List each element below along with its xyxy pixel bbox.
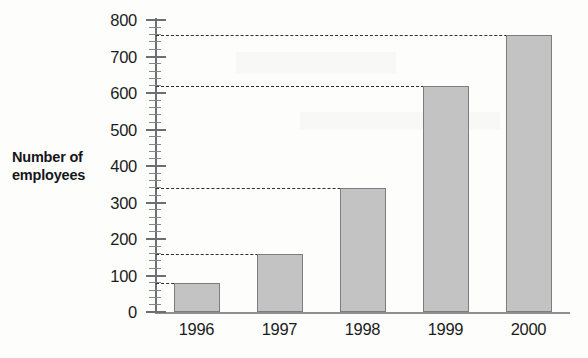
y-tick-major (146, 19, 166, 21)
x-category-label: 1999 (428, 320, 464, 339)
y-tick-major (146, 165, 166, 167)
x-category-label: 1996 (179, 320, 215, 339)
y-tick-minor (149, 304, 161, 305)
value-guide-line (156, 35, 552, 36)
x-category-label: 2000 (511, 320, 547, 339)
y-tick-minor (149, 144, 161, 145)
y-tick-label: 700 (110, 47, 137, 66)
y-tick-major (146, 56, 166, 58)
y-tick-minor (149, 151, 161, 152)
y-tick-minor (149, 71, 161, 72)
y-tick-minor (149, 224, 161, 225)
y-tick-label: 300 (110, 193, 137, 212)
y-tick-minor (149, 268, 161, 269)
y-axis-title-line-2: employees (12, 166, 116, 184)
x-axis-line (155, 312, 570, 314)
y-tick-minor (149, 63, 161, 64)
y-tick-major (146, 202, 166, 204)
plot-area: 0100200300400500600700800 (155, 18, 570, 314)
y-tick-minor (149, 246, 161, 247)
y-tick-major (146, 238, 166, 240)
y-tick-major (146, 311, 166, 313)
y-tick-minor (149, 173, 161, 174)
y-tick-minor (149, 260, 161, 261)
bar (174, 283, 220, 312)
y-tick-label: 600 (110, 84, 137, 103)
y-tick-label: 800 (110, 11, 137, 30)
y-tick-minor (149, 231, 161, 232)
y-tick-minor (149, 78, 161, 79)
y-tick-minor (149, 107, 161, 108)
y-tick-label: 0 (128, 303, 137, 322)
y-tick-minor (149, 195, 161, 196)
y-tick-minor (149, 100, 161, 101)
y-tick-minor (149, 122, 161, 123)
y-tick-minor (149, 297, 161, 298)
y-tick-major (146, 275, 166, 277)
y-tick-minor (149, 27, 161, 28)
bar (423, 86, 469, 312)
x-category-label: 1997 (262, 320, 298, 339)
bar (257, 254, 303, 312)
y-tick-label: 500 (110, 120, 137, 139)
y-axis-title-line-1: Number of (12, 148, 116, 166)
y-tick-minor (149, 41, 161, 42)
y-tick-minor (149, 114, 161, 115)
y-tick-minor (149, 209, 161, 210)
y-tick-major (146, 92, 166, 94)
y-axis-title: Number of employees (12, 148, 116, 184)
y-tick-minor (149, 49, 161, 50)
bar (340, 188, 386, 312)
y-tick-minor (149, 180, 161, 181)
y-tick-label: 100 (110, 266, 137, 285)
y-tick-label: 400 (110, 157, 137, 176)
bar (506, 35, 552, 312)
x-category-label: 1998 (345, 320, 381, 339)
y-tick-major (146, 129, 166, 131)
y-tick-label: 200 (110, 230, 137, 249)
y-tick-minor (149, 290, 161, 291)
y-tick-minor (149, 217, 161, 218)
y-tick-minor (149, 158, 161, 159)
y-tick-minor (149, 136, 161, 137)
bar-chart-figure: Number of employees 01002003004005006007… (0, 0, 588, 358)
